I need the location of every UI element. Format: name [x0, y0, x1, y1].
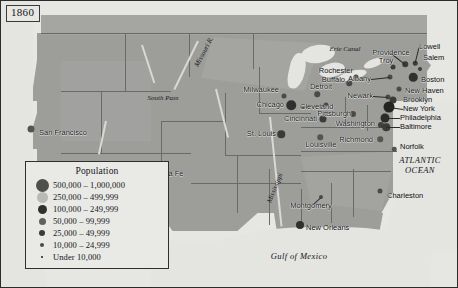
- ocean-label-gulf-of-mexico: Gulf of Mexico: [271, 251, 328, 261]
- city-label-baltimore: Baltimore: [400, 123, 432, 131]
- ocean-label-line1: Gulf of Mexico: [271, 251, 328, 261]
- legend-label: 10,000 – 24,999: [53, 240, 110, 250]
- legend-rows: 500,000 – 1,000,000250,000 – 499,999100,…: [31, 179, 163, 263]
- city-label-new-haven: New Haven: [405, 87, 444, 95]
- city-label-cincinnati: Cincinnati: [284, 115, 317, 123]
- city-label-lowell: Lowell: [419, 43, 440, 51]
- legend-label: 500,000 – 1,000,000: [53, 180, 125, 190]
- legend-label: 250,000 – 499,999: [53, 192, 118, 202]
- city-dot-milwaukee[interactable]: [282, 94, 287, 99]
- city-label-washington: Washington: [336, 120, 375, 128]
- legend-label: 25,000 – 49,999: [53, 228, 110, 238]
- city-label-providence: Providence: [372, 49, 410, 57]
- city-dot-charleston[interactable]: [378, 189, 383, 194]
- legend-row: 50,000 – 99,999: [31, 215, 163, 227]
- legend-swatch: [31, 192, 53, 203]
- city-dot-new-haven[interactable]: [397, 87, 402, 92]
- city-label-new-york: New York: [403, 105, 435, 113]
- legend-dot-icon: [41, 256, 44, 259]
- city-label-san-francisco: San Francisco: [39, 129, 87, 137]
- city-label-chicago: Chicago: [256, 101, 284, 109]
- city-dot-chicago[interactable]: [286, 100, 296, 110]
- legend-label: Under 10,000: [53, 252, 101, 262]
- legend-label: 50,000 – 99,999: [53, 216, 110, 226]
- legend-swatch: [31, 205, 53, 214]
- city-dot-new-orleans[interactable]: [296, 221, 304, 229]
- city-leader-line: [385, 118, 400, 119]
- legend-swatch: [31, 230, 53, 236]
- city-label-charleston: Charleston: [387, 192, 423, 200]
- city-label-brooklyn: Brooklyn: [403, 96, 432, 104]
- city-dot-boston[interactable]: [409, 73, 418, 82]
- city-label-new-orleans: New Orleans: [306, 224, 349, 232]
- city-label-boston: Boston: [421, 76, 444, 84]
- ocean-label-line1: ATLANTIC: [399, 155, 441, 165]
- legend-row: 500,000 – 1,000,000: [31, 179, 163, 191]
- ocean-label-line2: OCEAN: [399, 165, 441, 175]
- city-label-philadelphia: Philadelphia: [400, 114, 441, 122]
- population-map-1860: 1860 Missouri R.South PassErie CanalMiss…: [0, 0, 458, 288]
- city-dot-troy[interactable]: [391, 65, 396, 70]
- city-label-pittsburgh: Pittsburgh: [317, 110, 351, 118]
- population-legend: Population 500,000 – 1,000,000250,000 – …: [25, 161, 169, 269]
- ocean-label-atlantic: ATLANTICOCEAN: [399, 155, 441, 175]
- city-label-milwaukee: Milwaukee: [244, 86, 279, 94]
- legend-swatch: [31, 218, 53, 225]
- legend-swatch: [31, 243, 53, 248]
- city-dot-salem[interactable]: [418, 67, 422, 71]
- city-label-detroit: Detroit: [310, 83, 332, 91]
- legend-dot-icon: [39, 230, 45, 236]
- legend-dot-icon: [36, 179, 49, 192]
- city-leader-line: [386, 127, 400, 128]
- city-label-st-louis: St. Louis: [247, 130, 276, 138]
- city-dot-st-louis[interactable]: [277, 130, 285, 138]
- legend-dot-icon: [38, 205, 47, 214]
- legend-title: Population: [31, 166, 163, 176]
- city-label-newark: Newark: [348, 92, 373, 100]
- legend-row: 250,000 – 499,999: [31, 191, 163, 203]
- city-dot-san-francisco[interactable]: [28, 126, 35, 133]
- year-label: 1860: [6, 5, 40, 22]
- city-label-buffalo: Buffalo: [322, 76, 345, 84]
- legend-dot-icon: [40, 243, 45, 248]
- legend-dot-icon: [37, 192, 48, 203]
- city-label-montgomery: Montgomery: [290, 202, 332, 210]
- legend-dot-icon: [39, 218, 46, 225]
- city-dot-detroit[interactable]: [314, 91, 320, 97]
- canada-border: [41, 33, 427, 34]
- city-label-albany: Albany: [348, 75, 371, 83]
- city-label-norfolk: Norfolk: [400, 143, 424, 151]
- geo-label-erie-canal: Erie Canal: [330, 45, 361, 53]
- city-dot-norfolk[interactable]: [392, 147, 397, 152]
- geo-label-south-pass: South Pass: [148, 94, 179, 102]
- city-label-salem: Salem: [423, 54, 444, 62]
- city-label-troy: Troy: [379, 57, 394, 65]
- legend-row: 25,000 – 49,999: [31, 227, 163, 239]
- city-label-louisville: Louisville: [306, 141, 337, 149]
- legend-swatch: [31, 179, 53, 192]
- legend-row: 100,000 – 249,999: [31, 203, 163, 215]
- legend-swatch: [31, 256, 53, 259]
- city-dot-louisville[interactable]: [317, 134, 323, 140]
- legend-row: 10,000 – 24,999: [31, 239, 163, 251]
- city-label-richmond: Richmond: [339, 136, 373, 144]
- city-dot-richmond[interactable]: [377, 136, 383, 142]
- legend-label: 100,000 – 249,999: [53, 204, 118, 214]
- legend-row: Under 10,000: [31, 251, 163, 263]
